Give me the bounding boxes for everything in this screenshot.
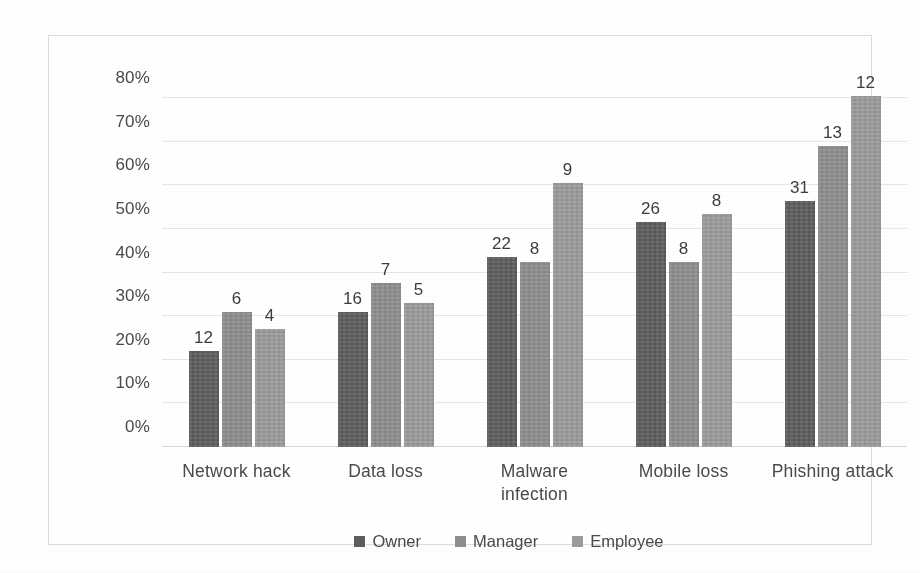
y-tick-label: 30% [115, 286, 150, 306]
bar-owner-phishing-attack[interactable]: 31 [785, 201, 815, 447]
bars: 1675 [311, 98, 460, 447]
bar-employee-malware-infection[interactable]: 9 [553, 183, 583, 447]
bar-fill [636, 222, 666, 447]
bar-value-label: 9 [563, 160, 572, 180]
bar-manager-network-hack[interactable]: 6 [222, 312, 252, 447]
bar-fill [487, 257, 517, 447]
x-category-label-line: Data loss [311, 460, 460, 483]
bars: 1264 [162, 98, 311, 447]
legend-swatch-icon [572, 536, 583, 547]
x-category-label: Mobile loss [609, 460, 758, 483]
legend-label: Employee [590, 532, 663, 551]
y-tick-label: 60% [115, 155, 150, 175]
bar-value-label: 12 [194, 328, 213, 348]
bar-value-label: 5 [414, 280, 423, 300]
bar-employee-mobile-loss[interactable]: 8 [702, 214, 732, 447]
x-category-label-line: Network hack [162, 460, 311, 483]
bars: 311312 [758, 98, 907, 447]
plot-area: 0%10%20%30%40%50%60%70%80% 1264167522892… [162, 98, 907, 447]
bar-value-label: 22 [492, 234, 511, 254]
y-tick-label: 70% [115, 112, 150, 132]
x-axis-category-labels: Network hackData lossMalwareinfectionMob… [162, 460, 907, 516]
bar-owner-data-loss[interactable]: 16 [338, 312, 368, 447]
chart-legend: OwnerManagerEmployee [97, 532, 920, 551]
bar-manager-phishing-attack[interactable]: 13 [818, 146, 848, 447]
x-category-label-line: Malware [460, 460, 609, 483]
bar-fill [785, 201, 815, 447]
legend-item-owner[interactable]: Owner [354, 532, 421, 551]
bar-value-label: 12 [856, 73, 875, 93]
bar-fill [669, 262, 699, 447]
bar-value-label: 13 [823, 123, 842, 143]
y-tick-label: 40% [115, 243, 150, 263]
bar-value-label: 4 [265, 306, 274, 326]
bar-employee-phishing-attack[interactable]: 12 [851, 96, 881, 447]
x-category-label: Phishing attack [758, 460, 907, 483]
bar-manager-malware-infection[interactable]: 8 [520, 262, 550, 447]
bar-value-label: 8 [530, 239, 539, 259]
bar-group: 2289 [460, 98, 609, 447]
x-category-label: Data loss [311, 460, 460, 483]
bar-group: 1264 [162, 98, 311, 447]
bar-fill [702, 214, 732, 447]
y-tick-label: 0% [125, 417, 150, 437]
bar-owner-malware-infection[interactable]: 22 [487, 257, 517, 447]
bar-value-label: 8 [712, 191, 721, 211]
bar-owner-network-hack[interactable]: 12 [189, 351, 219, 447]
x-category-label-line: Mobile loss [609, 460, 758, 483]
bar-owner-mobile-loss[interactable]: 26 [636, 222, 666, 447]
legend-swatch-icon [354, 536, 365, 547]
x-category-label-line: Phishing attack [758, 460, 907, 483]
bar-value-label: 31 [790, 178, 809, 198]
legend-label: Owner [372, 532, 421, 551]
bar-group: 2688 [609, 98, 758, 447]
legend-label: Manager [473, 532, 538, 551]
y-tick-label: 10% [115, 373, 150, 393]
bar-fill [189, 351, 219, 447]
bar-fill [222, 312, 252, 447]
bar-manager-mobile-loss[interactable]: 8 [669, 262, 699, 447]
bars: 2688 [609, 98, 758, 447]
y-tick-label: 80% [115, 68, 150, 88]
bar-value-label: 8 [679, 239, 688, 259]
bar-fill [553, 183, 583, 447]
bar-group: 1675 [311, 98, 460, 447]
bar-fill [818, 146, 848, 447]
y-tick-label: 50% [115, 199, 150, 219]
bar-fill [404, 303, 434, 447]
bar-value-label: 7 [381, 260, 390, 280]
bar-group: 311312 [758, 98, 907, 447]
bar-fill [255, 329, 285, 447]
bar-fill [338, 312, 368, 447]
y-tick-label: 20% [115, 330, 150, 350]
bar-fill [851, 96, 881, 447]
bar-fill [371, 283, 401, 447]
bar-employee-network-hack[interactable]: 4 [255, 329, 285, 447]
x-category-label: Network hack [162, 460, 311, 483]
bar-value-label: 6 [232, 289, 241, 309]
bar-employee-data-loss[interactable]: 5 [404, 303, 434, 447]
x-category-label-line: infection [460, 483, 609, 506]
x-category-label: Malwareinfection [460, 460, 609, 506]
bar-value-label: 16 [343, 289, 362, 309]
bar-value-label: 26 [641, 199, 660, 219]
bar-fill [520, 262, 550, 447]
chart-frame: 0%10%20%30%40%50%60%70%80% 1264167522892… [48, 35, 872, 545]
legend-item-manager[interactable]: Manager [455, 532, 538, 551]
bars: 2289 [460, 98, 609, 447]
bar-manager-data-loss[interactable]: 7 [371, 283, 401, 447]
legend-item-employee[interactable]: Employee [572, 532, 663, 551]
legend-swatch-icon [455, 536, 466, 547]
